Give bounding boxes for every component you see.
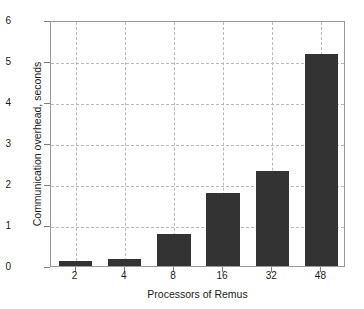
bar [108,259,141,266]
horizontal-gridline [51,145,344,146]
y-tick-label: 1 [0,221,11,231]
x-tick-label: 2 [55,271,95,281]
x-tick-label: 4 [104,271,144,281]
y-tick-label: 3 [0,139,11,149]
y-tick-mark [44,267,50,268]
y-tick-label: 2 [0,180,11,190]
vertical-gridline [125,22,126,266]
bar [157,234,190,266]
plot-area [50,21,345,267]
y-tick-label: 4 [0,98,11,108]
horizontal-gridline [51,186,344,187]
vertical-gridline [76,22,77,266]
bar [305,54,338,266]
y-tick-mark [44,62,50,63]
y-axis-title: Communication overhead, seconds [31,21,43,267]
y-tick-mark [44,226,50,227]
x-tick-label: 8 [153,271,193,281]
y-tick-mark [44,144,50,145]
y-tick-label: 5 [0,57,11,67]
x-axis-title: Processors of Remus [50,288,345,300]
x-tick-label: 16 [202,271,242,281]
bar [206,193,239,266]
x-tick-label: 32 [251,271,291,281]
horizontal-gridline [51,227,344,228]
y-tick-mark [44,103,50,104]
y-tick-mark [44,185,50,186]
bar [59,261,92,266]
y-tick-mark [44,21,50,22]
plot-inner [51,22,344,266]
y-tick-label: 6 [0,16,11,26]
bar-chart-figure: 0123456248163248 Processors of Remus Com… [0,0,364,309]
x-tick-label: 48 [300,271,340,281]
bar [256,171,289,266]
vertical-gridline [174,22,175,266]
y-tick-label: 0 [0,262,11,272]
horizontal-gridline [51,63,344,64]
horizontal-gridline [51,104,344,105]
